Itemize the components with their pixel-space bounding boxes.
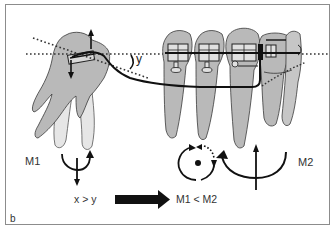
comparison-text: x > y — [74, 194, 96, 205]
angle-label: y — [136, 53, 142, 65]
center-of-rotation-icon — [179, 144, 218, 180]
thick-right-arrow-icon — [115, 190, 170, 209]
moment-label-m1: M1 — [25, 156, 40, 167]
panel-label: b — [10, 214, 16, 224]
molar — [32, 29, 109, 149]
tipping-moment-large-icon — [216, 144, 286, 190]
dental-mechanics-diagram — [0, 0, 333, 233]
result-text: M1 < M2 — [176, 194, 217, 205]
tipping-moment-small-icon — [62, 150, 94, 186]
moment-label-m2: M2 — [298, 157, 313, 168]
